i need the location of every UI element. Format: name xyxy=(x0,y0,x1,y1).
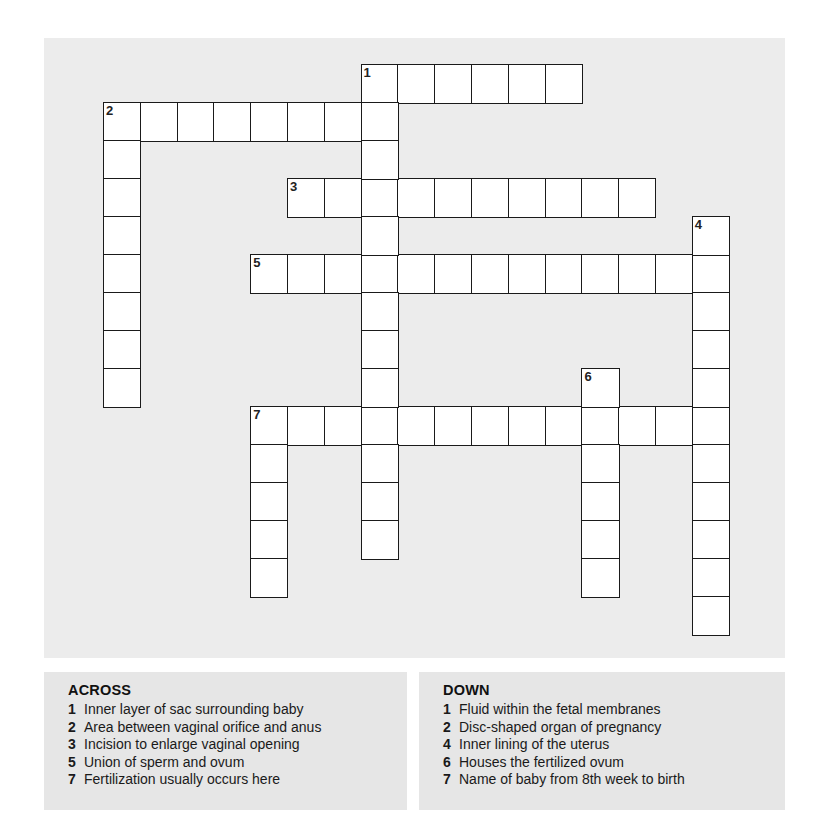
crossword-cell[interactable] xyxy=(361,292,399,332)
crossword-cell[interactable] xyxy=(692,406,730,446)
crossword-cell[interactable] xyxy=(324,102,362,142)
crossword-cell[interactable] xyxy=(361,102,399,142)
crossword-cell[interactable] xyxy=(471,406,509,446)
crossword-cell[interactable] xyxy=(361,178,399,218)
crossword-cell[interactable] xyxy=(361,216,399,256)
crossword-cell[interactable] xyxy=(655,254,693,294)
crossword-cell[interactable] xyxy=(655,406,693,446)
crossword-cell[interactable] xyxy=(581,406,619,446)
crossword-cell[interactable] xyxy=(397,254,435,294)
clue-text: Fertilization usually occurs here xyxy=(84,771,280,787)
crossword-cell[interactable] xyxy=(324,178,362,218)
crossword-cell[interactable] xyxy=(434,64,472,104)
clue-text: Area between vaginal orifice and anus xyxy=(84,719,321,735)
crossword-cell[interactable] xyxy=(471,64,509,104)
crossword-cell[interactable] xyxy=(250,482,288,522)
crossword-cell[interactable] xyxy=(692,330,730,370)
crossword-cell[interactable] xyxy=(361,444,399,484)
crossword-cell[interactable] xyxy=(581,520,619,560)
crossword-cell[interactable] xyxy=(692,520,730,560)
crossword-cell[interactable] xyxy=(692,596,730,636)
crossword-cell[interactable] xyxy=(361,330,399,370)
crossword-cell[interactable] xyxy=(692,482,730,522)
crossword-cell[interactable] xyxy=(103,292,141,332)
clue-number: 1 xyxy=(68,701,84,719)
crossword-cell[interactable]: 6 xyxy=(581,368,619,408)
clue-text: Name of baby from 8th week to birth xyxy=(459,771,685,787)
crossword-cell[interactable] xyxy=(397,178,435,218)
crossword-cell[interactable] xyxy=(103,368,141,408)
crossword-cell[interactable] xyxy=(140,102,178,142)
crossword-cell[interactable] xyxy=(545,64,583,104)
crossword-cell[interactable] xyxy=(545,178,583,218)
crossword-cell[interactable] xyxy=(177,102,215,142)
clue-number: 1 xyxy=(443,701,459,719)
crossword-cell[interactable] xyxy=(618,178,656,218)
crossword-cell[interactable] xyxy=(213,102,251,142)
crossword-cell[interactable] xyxy=(250,444,288,484)
crossword-cell[interactable] xyxy=(361,520,399,560)
across-clue-5: 5Union of sperm and ovum xyxy=(68,754,407,772)
crossword-cell[interactable] xyxy=(581,482,619,522)
crossword-cell[interactable] xyxy=(434,178,472,218)
crossword-cell[interactable] xyxy=(434,406,472,446)
crossword-cell[interactable]: 4 xyxy=(692,216,730,256)
crossword-cell[interactable] xyxy=(692,292,730,332)
crossword-cell[interactable] xyxy=(434,254,472,294)
crossword-cell[interactable] xyxy=(250,102,288,142)
crossword-cell[interactable] xyxy=(287,102,325,142)
across-clue-3: 3Incision to enlarge vaginal opening xyxy=(68,736,407,754)
crossword-cell[interactable] xyxy=(618,406,656,446)
crossword-cell[interactable] xyxy=(508,178,546,218)
down-clue-6: 6Houses the fertilized ovum xyxy=(443,754,785,772)
clue-number: 3 xyxy=(68,736,84,754)
clue-number-label: 5 xyxy=(253,256,260,269)
crossword-cell[interactable] xyxy=(250,520,288,560)
crossword-cell[interactable] xyxy=(361,368,399,408)
crossword-cell[interactable] xyxy=(287,254,325,294)
crossword-cell[interactable] xyxy=(397,406,435,446)
crossword-cell[interactable] xyxy=(103,330,141,370)
clue-number-label: 1 xyxy=(364,66,371,79)
crossword-cell[interactable] xyxy=(692,254,730,294)
crossword-cell[interactable] xyxy=(581,254,619,294)
crossword-cell[interactable] xyxy=(581,558,619,598)
crossword-cell[interactable] xyxy=(361,482,399,522)
crossword-cell[interactable]: 7 xyxy=(250,406,288,446)
crossword-cell[interactable] xyxy=(692,558,730,598)
crossword-cell[interactable] xyxy=(581,444,619,484)
crossword-cell[interactable] xyxy=(103,216,141,256)
crossword-cell[interactable] xyxy=(692,444,730,484)
crossword-cell[interactable] xyxy=(581,178,619,218)
crossword-cell[interactable] xyxy=(692,368,730,408)
crossword-cell[interactable] xyxy=(361,140,399,180)
crossword-cell[interactable]: 3 xyxy=(287,178,325,218)
crossword-cell[interactable] xyxy=(103,254,141,294)
crossword-cell[interactable] xyxy=(361,406,399,446)
crossword-cell[interactable] xyxy=(287,406,325,446)
crossword-cell[interactable] xyxy=(471,178,509,218)
clue-number-label: 6 xyxy=(584,370,591,383)
crossword-cell[interactable] xyxy=(250,558,288,598)
crossword-cell[interactable] xyxy=(545,254,583,294)
crossword-cell[interactable] xyxy=(324,254,362,294)
crossword-cell[interactable] xyxy=(361,254,399,294)
crossword-cell[interactable] xyxy=(103,140,141,180)
crossword-cell[interactable] xyxy=(508,64,546,104)
crossword-cell[interactable] xyxy=(397,64,435,104)
across-heading: ACROSS xyxy=(68,682,407,698)
crossword-cell[interactable] xyxy=(618,254,656,294)
clue-number-label: 4 xyxy=(695,218,702,231)
crossword-cell[interactable] xyxy=(103,178,141,218)
down-clues-panel: DOWN 1Fluid within the fetal membranes 2… xyxy=(419,672,785,810)
clue-text: Inner layer of sac surrounding baby xyxy=(84,701,303,717)
crossword-cell[interactable] xyxy=(508,254,546,294)
crossword-cell[interactable] xyxy=(324,406,362,446)
crossword-cell[interactable] xyxy=(471,254,509,294)
crossword-cell[interactable]: 1 xyxy=(361,64,399,104)
crossword-cell[interactable]: 5 xyxy=(250,254,288,294)
crossword-cell[interactable] xyxy=(545,406,583,446)
clue-number: 2 xyxy=(443,719,459,737)
crossword-cell[interactable]: 2 xyxy=(103,102,141,142)
crossword-cell[interactable] xyxy=(508,406,546,446)
